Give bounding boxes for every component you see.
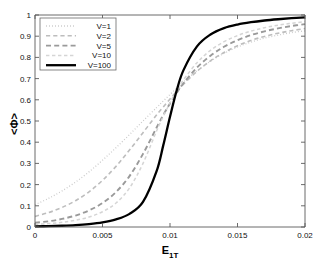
x-tick-label: 0.01 (162, 231, 178, 240)
chart-figure: 00.0050.010.0150.02 00.10.20.30.40.50.60… (0, 0, 323, 262)
y-tick-label: 0.8 (20, 53, 32, 62)
legend: V=1V=2V=5V=10V=100 (40, 18, 116, 70)
y-tick-label: 0.4 (20, 138, 32, 147)
y-tick-label: 0.6 (20, 96, 32, 105)
x-tick-label: 0.005 (92, 231, 113, 240)
x-tick-label: 0 (33, 231, 38, 240)
svg-text:E1T: E1T (162, 244, 179, 260)
y-axis-title: <Φ> (8, 113, 20, 135)
y-tick-label: 0.3 (20, 159, 32, 168)
x-axis-title: E1T (162, 244, 179, 260)
legend-label-v-10: V=10 (92, 51, 111, 60)
legend-label-v-100: V=100 (88, 61, 112, 70)
x-axis-title-subscript: 1T (169, 251, 178, 260)
x-tick-label: 0.02 (297, 231, 313, 240)
y-tick-label: 0.2 (20, 181, 32, 190)
y-tick-label: 1 (27, 11, 32, 20)
y-tick-label: 0.9 (20, 32, 32, 41)
x-axis-title-base: E (162, 244, 169, 256)
legend-label-v-5: V=5 (97, 42, 112, 51)
y-tick-label: 0.5 (20, 117, 32, 126)
y-tick-label: 0.1 (20, 202, 32, 211)
x-tick-label: 0.015 (227, 231, 248, 240)
y-tick-label: 0 (27, 223, 32, 232)
legend-label-v-2: V=2 (97, 32, 112, 41)
y-tick-label: 0.7 (20, 75, 32, 84)
legend-label-v-1: V=1 (97, 22, 112, 31)
plot-canvas: 00.0050.010.0150.02 00.10.20.30.40.50.60… (0, 0, 323, 262)
